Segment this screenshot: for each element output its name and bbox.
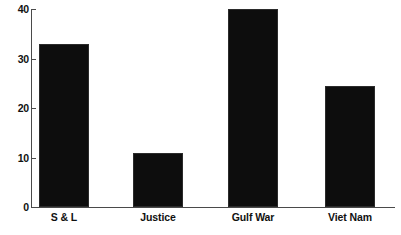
y-axis-tick-label: 40	[3, 4, 29, 14]
bar	[325, 86, 375, 207]
bar-chart: 403020100 S & LJusticeGulf WarViet Nam	[0, 0, 401, 235]
x-axis-category-label: Viet Nam	[300, 211, 400, 223]
y-axis-tick-mark	[31, 108, 36, 109]
bar	[133, 153, 183, 207]
y-axis-tick-label: 30	[3, 54, 29, 64]
bar	[228, 9, 278, 207]
y-axis-tick-label: 10	[3, 153, 29, 163]
x-axis-category-label: Gulf War	[203, 211, 303, 223]
bar	[39, 44, 89, 207]
plot-area: 403020100 S & LJusticeGulf WarViet Nam	[0, 0, 401, 235]
x-axis-category-label: Justice	[108, 211, 208, 223]
y-axis-tick-mark	[31, 59, 36, 60]
y-axis-tick-mark	[31, 207, 36, 208]
x-axis-line	[31, 207, 395, 208]
y-axis-tick-mark	[31, 9, 36, 10]
y-axis-tick-mark	[31, 158, 36, 159]
x-axis-category-label: S & L	[14, 211, 114, 223]
y-axis-tick-label: 20	[3, 103, 29, 113]
